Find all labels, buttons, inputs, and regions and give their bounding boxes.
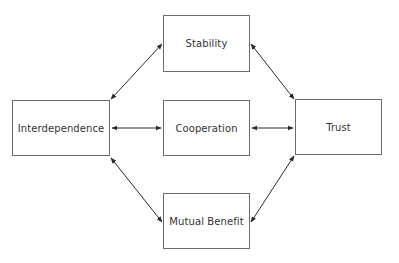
- edge-interdependence-mutual-benefit: [111, 158, 162, 222]
- edge-mutual-benefit-trust: [251, 156, 294, 222]
- node-label: Mutual Benefit: [169, 216, 243, 227]
- node-label: Trust: [326, 122, 351, 133]
- node-cooperation: Cooperation: [163, 100, 250, 156]
- edge-interdependence-stability: [111, 44, 162, 99]
- node-trust: Trust: [295, 99, 382, 155]
- node-label: Interdependence: [18, 123, 105, 134]
- node-label: Stability: [186, 38, 228, 49]
- node-stability: Stability: [163, 15, 250, 72]
- node-mutual-benefit: Mutual Benefit: [163, 193, 250, 249]
- diagram-canvas: Stability Interdependence Cooperation Tr…: [0, 0, 399, 263]
- edge-stability-trust: [251, 44, 294, 99]
- node-label: Cooperation: [175, 123, 237, 134]
- node-interdependence: Interdependence: [12, 100, 110, 156]
